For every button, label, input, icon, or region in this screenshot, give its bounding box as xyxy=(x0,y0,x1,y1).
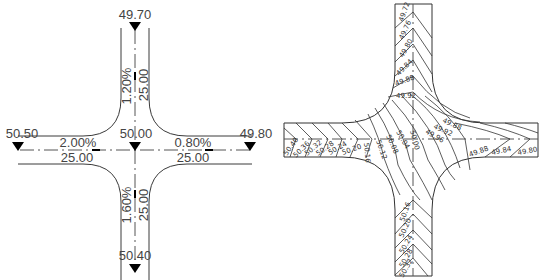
contour-label-center-5: 50.16 xyxy=(362,142,372,163)
elevation-label-north: 49.70 xyxy=(119,7,152,22)
road-edge-southeast xyxy=(149,164,252,280)
road-edge-southwest xyxy=(18,164,121,280)
contour-label-north-5: 49.92 xyxy=(396,92,416,100)
width-label-east: 25.00 xyxy=(177,150,210,165)
elevation-marker-center xyxy=(129,142,141,151)
elevation-marker-south xyxy=(129,264,141,273)
width-label-west: 25.00 xyxy=(61,150,94,165)
width-label-south: 25.00 xyxy=(136,189,151,222)
slope-label-south: 1.60% xyxy=(119,186,134,223)
slope-label-west: 2.00% xyxy=(60,135,97,150)
left-intersection-plan: 49.70 50.50 50.00 49.80 50.40 1.20% 2.00… xyxy=(6,7,273,280)
width-label-north: 25.00 xyxy=(136,69,151,102)
elevation-label-west: 50.50 xyxy=(6,126,39,141)
elevation-label-center: 50.00 xyxy=(120,126,153,141)
elevation-label-south: 50.40 xyxy=(119,248,152,263)
drawing-canvas: 49.70 50.50 50.00 49.80 50.40 1.20% 2.00… xyxy=(0,0,545,280)
elevation-marker-north xyxy=(129,22,141,31)
slope-label-east: 0.80% xyxy=(175,135,212,150)
road-edge-northeast xyxy=(149,28,252,136)
right-contour-plan: 49.72 49.76 49.80 49.84 49.88 49.92 49.9… xyxy=(282,1,538,279)
road-edge-northwest xyxy=(18,28,121,136)
slope-label-north: 1.20% xyxy=(119,67,134,104)
elevation-label-east: 49.80 xyxy=(240,126,273,141)
